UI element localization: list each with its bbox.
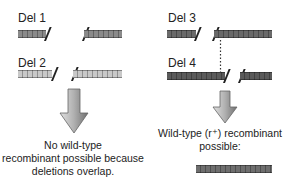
down-arrow-icon (213, 91, 239, 125)
del1-right-segment (84, 30, 122, 38)
caption-line-2: recombinant possible because (0, 152, 146, 165)
del2-label: Del 2 (18, 57, 46, 69)
del4-right-segment (240, 72, 272, 80)
del3-left-segment (167, 30, 196, 38)
wild-type-caption: Wild-type (r⁺) recombinant possible: (150, 127, 290, 153)
down-arrow-icon (60, 89, 90, 135)
del3-label: Del 3 (168, 12, 196, 24)
del2-break-mark-left (51, 67, 58, 81)
del1-left-segment (18, 30, 46, 38)
caption-line-3: deletions overlap. (0, 165, 146, 178)
del1-label: Del 1 (18, 12, 46, 24)
del2-right-segment (73, 70, 122, 78)
del4-left-segment (167, 72, 225, 80)
wild-type-recombinant-bar (196, 165, 272, 173)
del2-left-segment (18, 70, 52, 78)
del3-right-segment (214, 30, 272, 38)
no-recombinant-caption: No wild-type recombinant possible becaus… (0, 139, 146, 178)
caption-line-2: possible: (150, 140, 290, 153)
del4-label: Del 4 (168, 57, 196, 69)
caption-line-1: No wild-type (0, 139, 146, 152)
caption-line-1: Wild-type (r⁺) recombinant (150, 127, 290, 140)
